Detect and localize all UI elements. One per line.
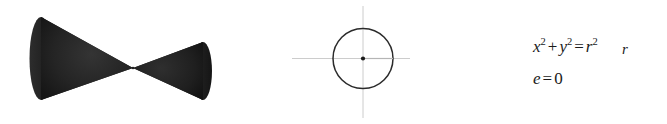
- cone-apex-point: [132, 67, 134, 69]
- equation-term-y: y: [559, 37, 567, 56]
- equation-operator-equals: =: [572, 37, 586, 56]
- right-cone-body-fill: [133, 42, 203, 100]
- conic-equation: x2+y2=r2: [533, 38, 598, 55]
- circle-center-dot: [361, 56, 365, 60]
- equation-term-x: x: [533, 37, 541, 56]
- left-cone-body-fill: [41, 17, 133, 100]
- right-nappe: [133, 42, 212, 100]
- eccentricity-value: 0: [554, 69, 563, 88]
- conic-section-figure: r x2+y2=r2 e=0: [0, 0, 667, 124]
- equations-panel: x2+y2=r2 e=0: [500, 0, 667, 124]
- equation-operator-plus: +: [546, 37, 560, 56]
- equation-exponent-r: 2: [592, 36, 597, 47]
- eccentricity-symbol: e: [533, 69, 541, 88]
- circle-graphic: [250, 0, 500, 124]
- eccentricity-equation: e=0: [533, 70, 563, 87]
- double-cone-panel: [0, 0, 250, 124]
- left-nappe: [30, 17, 134, 100]
- double-cone-graphic: [0, 0, 250, 124]
- circle-panel: r: [250, 0, 500, 124]
- eccentricity-operator-equals: =: [541, 69, 555, 88]
